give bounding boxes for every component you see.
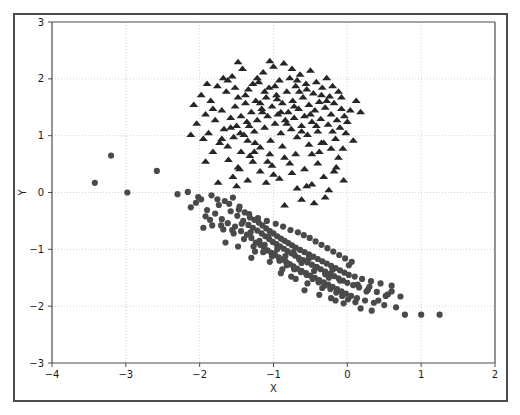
data-point-circle [326,275,332,281]
ytick-label: 3 [38,17,44,28]
data-point-circle [366,284,372,290]
data-point-circle [236,206,242,212]
data-point-circle [352,299,358,305]
data-point-circle [307,235,313,241]
data-point-circle [188,204,194,210]
data-point-circle [393,304,399,310]
data-point-circle [214,196,220,202]
data-point-circle [318,242,324,248]
ytick-label: −3 [29,358,44,369]
data-point-circle [280,224,286,230]
data-point-circle [218,222,224,228]
data-point-circle [92,180,98,186]
data-point-circle [241,236,247,242]
data-point-circle [337,277,343,283]
data-point-circle [344,280,350,286]
data-point-circle [315,279,321,285]
data-point-circle [316,292,322,298]
data-point-circle [293,276,299,282]
data-point-circle [248,255,254,261]
xtick-label: −2 [192,369,207,380]
data-point-circle [328,295,334,301]
data-point-circle [437,312,443,318]
data-point-circle [341,300,347,306]
data-point-circle [273,221,279,227]
data-point-circle [185,189,191,195]
data-point-circle [359,276,365,282]
data-point-circle [255,215,261,221]
ytick-label: 2 [38,73,44,84]
data-point-circle [248,235,254,241]
data-point-circle [296,256,302,262]
data-point-circle [229,227,235,233]
data-point-circle [252,249,258,255]
data-point-circle [108,152,114,158]
data-point-circle [216,202,222,208]
data-point-circle [389,288,395,294]
data-point-circle [346,272,352,278]
data-point-circle [377,280,383,286]
data-point-circle [267,259,273,265]
data-point-circle [200,225,206,231]
data-point-circle [248,229,254,235]
xtick-label: 2 [492,369,498,380]
data-point-circle [375,297,381,303]
data-point-circle [301,287,307,293]
xtick-label: −3 [118,369,133,380]
data-point-circle [327,286,333,292]
data-point-circle [124,189,130,195]
data-point-circle [330,249,336,255]
data-point-circle [238,228,244,234]
figure-container: −4−3−2−1012−3−2−10123XY [0,0,520,415]
data-point-circle [291,266,297,272]
data-point-circle [304,272,310,278]
data-point-circle [204,207,210,213]
data-point-circle [290,249,296,255]
data-point-circle [368,278,374,284]
data-point-circle [262,242,268,248]
data-point-circle [193,200,199,206]
data-point-circle [298,269,304,275]
data-point-circle [333,289,339,295]
data-point-circle [358,305,364,311]
ytick-label: −2 [29,301,44,312]
data-point-circle [219,216,225,222]
data-point-circle [174,191,180,197]
data-point-circle [278,270,284,276]
data-point-circle [324,245,330,251]
data-point-circle [339,293,345,299]
data-point-circle [319,285,325,291]
data-point-circle [207,217,213,223]
data-point-circle [256,238,262,244]
xtick-label: 0 [344,369,350,380]
data-point-circle [264,218,270,224]
data-point-circle [271,251,277,257]
data-point-circle [306,255,312,261]
data-point-circle [301,232,307,238]
data-point-circle [310,276,316,282]
data-point-circle [246,211,252,217]
data-point-circle [225,220,231,226]
xtick-label: −1 [266,369,281,380]
data-point-circle [230,195,236,201]
xtick-label: 1 [418,369,424,380]
data-point-circle [383,293,389,299]
xtick-label: −4 [45,369,60,380]
scatter-plot: −4−3−2−1012−3−2−10123XY [0,0,520,415]
data-point-circle [222,239,228,245]
data-point-circle [260,249,266,255]
ytick-label: −1 [29,244,44,255]
data-point-circle [235,243,241,249]
data-point-circle [381,302,387,308]
data-point-circle [265,234,271,240]
ytick-label: 0 [38,187,44,198]
data-point-circle [276,258,282,264]
data-point-circle [355,281,361,287]
ytick-label: 1 [38,130,44,141]
data-point-circle [369,308,375,314]
data-point-circle [352,274,358,280]
data-point-circle [329,267,335,273]
data-point-circle [282,253,288,259]
data-point-circle [402,312,408,318]
data-point-circle [346,262,352,268]
